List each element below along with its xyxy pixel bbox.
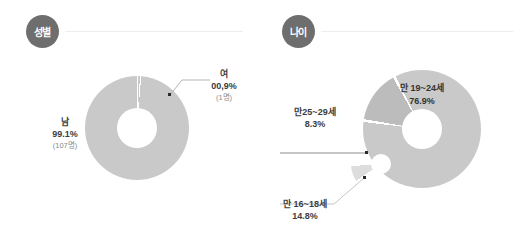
- gender-donut-ring: [85, 76, 189, 180]
- age-label-25-29-percent: 8.3%: [276, 118, 354, 130]
- age-section-header: 나이: [282, 16, 513, 46]
- age-leader-dot-16-18: [363, 176, 366, 179]
- gender-label-male-name: 남: [34, 116, 96, 128]
- age-label-25-29: 만25~29세 8.3%: [276, 106, 354, 130]
- header-divider: [321, 31, 513, 32]
- age-label-25-29-name: 만25~29세: [276, 106, 354, 118]
- age-slice-25-29-exploded: [351, 134, 411, 194]
- gender-label-female-percent: 00,9%: [196, 80, 252, 92]
- age-label-16-18: 만 16~18세 14.8%: [266, 198, 344, 222]
- gender-section-header: 성별: [26, 16, 243, 46]
- age-label-16-18-name: 만 16~18세: [266, 198, 344, 210]
- gender-label-female-count: (1명): [196, 92, 252, 104]
- age-label-16-18-percent: 14.8%: [266, 210, 344, 222]
- gender-leader-dot: [168, 93, 171, 96]
- gender-badge: 성별: [26, 15, 59, 48]
- gender-label-male-count: (107명): [34, 140, 96, 152]
- age-badge: 나이: [282, 15, 315, 48]
- gender-label-male-percent: 99.1%: [34, 128, 96, 140]
- age-leader-dot-25-29: [365, 151, 368, 154]
- header-divider: [65, 31, 243, 32]
- gender-label-female: 여 00,9% (1명): [196, 68, 252, 104]
- age-label-19-24: 만 19~24세 76.9%: [370, 82, 474, 107]
- age-label-19-24-name: 만 19~24세: [370, 82, 474, 95]
- age-label-19-24-percent: 76.9%: [370, 95, 474, 108]
- gender-donut-chart: [85, 76, 189, 180]
- gender-label-male: 남 99.1% (107명): [34, 116, 96, 152]
- age-donut-hole: [402, 109, 442, 149]
- gender-donut-hole: [117, 108, 157, 148]
- gender-label-female-name: 여: [196, 68, 252, 80]
- gender-section: 성별 남 99.1% (107명) 여 00,9% (1명): [0, 0, 262, 242]
- age-slice-25-29-hole: [371, 154, 391, 174]
- age-section: 나이 만 19~24세 76.9% 만25~29세 8.3% 만 16~18세 …: [262, 0, 524, 242]
